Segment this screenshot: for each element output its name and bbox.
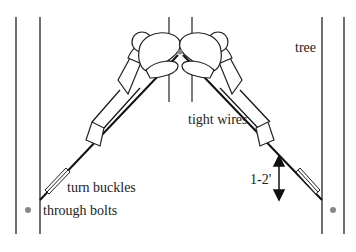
right-tree-trunk (322, 17, 344, 234)
wire-knot (132, 32, 228, 78)
right-turnbuckle (296, 168, 320, 194)
cable-bracing-diagram: tree tight wires turn buckles through bo… (0, 0, 356, 252)
left-tree-trunk (16, 17, 40, 234)
right-through-bolt-icon (330, 207, 336, 213)
distance-label: 1-2' (250, 173, 271, 187)
through-bolts-label: through bolts (43, 204, 117, 218)
left-through-bolt-icon (25, 207, 31, 213)
tight-wires-label: tight wires (188, 113, 248, 127)
tree-label: tree (295, 41, 316, 55)
distance-arrow-icon (274, 156, 284, 200)
center-bolt-icon (178, 50, 183, 55)
turn-buckles-label: turn buckles (67, 181, 136, 195)
